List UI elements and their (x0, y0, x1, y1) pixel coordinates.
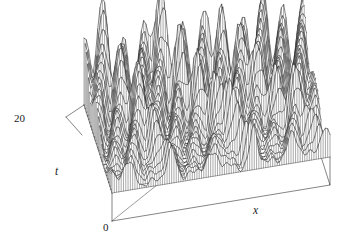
surface-plot-canvas (0, 0, 356, 248)
t-axis-min-label: 0 (103, 222, 109, 233)
x-axis-name-label: x (253, 205, 258, 217)
t-axis-name-label: t (55, 166, 58, 178)
t-axis-max-label: 20 (14, 113, 25, 124)
surface-plot-figure: 20 0 t x (0, 0, 356, 248)
